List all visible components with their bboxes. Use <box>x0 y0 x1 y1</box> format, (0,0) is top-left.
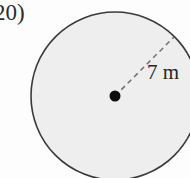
radius-measurement-label: 7 m <box>147 62 179 83</box>
center-point-dot <box>110 91 121 102</box>
geometry-figure-circle: 20) 7 m <box>0 0 190 178</box>
circle-diagram-canvas <box>0 0 190 178</box>
